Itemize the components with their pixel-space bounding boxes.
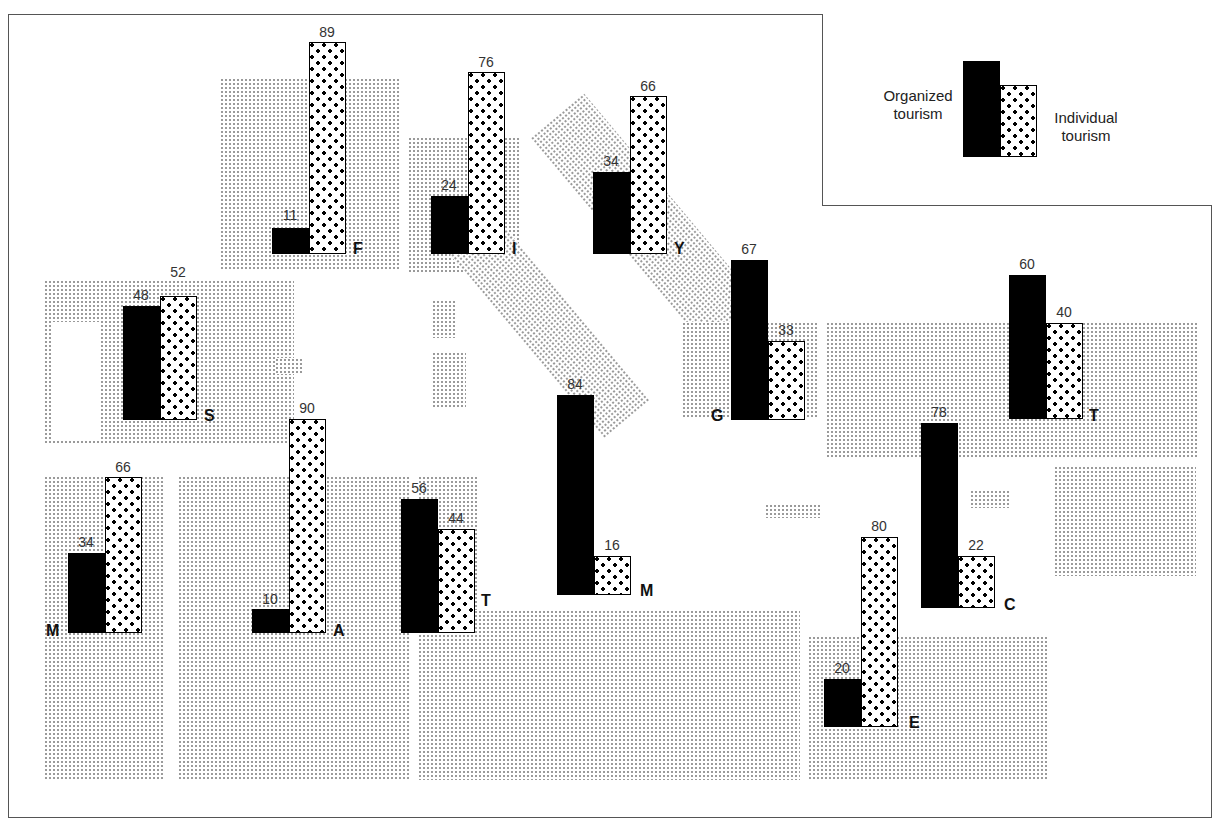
country-label: M (46, 622, 59, 640)
value-individual: 76 (466, 54, 506, 70)
country-label: E (909, 714, 920, 732)
value-organized: 60 (1007, 256, 1047, 272)
legend-organized-label: Organized tourism (873, 87, 963, 123)
bar-individual (105, 477, 142, 633)
land-crete (765, 504, 820, 518)
bar-organized (431, 196, 468, 254)
legend-organized-line2: tourism (893, 105, 942, 122)
bar-individual (438, 529, 475, 633)
legend-individual-line1: Individual (1054, 109, 1117, 126)
value-individual: 33 (766, 322, 806, 338)
bar-individual (289, 419, 326, 633)
bar-organized (824, 679, 861, 727)
value-organized: 34 (66, 534, 106, 550)
bar-individual (861, 537, 898, 727)
value-individual: 16 (592, 537, 632, 553)
land-middle-east (1054, 466, 1196, 576)
bar-organized (68, 553, 105, 633)
land-spain-inland-gap (52, 322, 100, 440)
bar-individual (468, 72, 505, 254)
country-label: C (1004, 596, 1016, 614)
legend-organized-swatch (963, 61, 1000, 157)
bar-organized (252, 609, 289, 633)
value-organized: 24 (429, 177, 469, 193)
bar-organized (272, 228, 309, 254)
legend-individual-label: Individual tourism (1041, 109, 1131, 145)
value-individual: 66 (103, 459, 143, 475)
bar-individual (594, 556, 631, 595)
country-label: Y (674, 240, 685, 258)
bar-organized (557, 395, 594, 595)
value-organized: 11 (270, 207, 310, 223)
value-organized: 34 (591, 153, 631, 169)
country-label: G (711, 407, 723, 425)
country-label: A (333, 622, 345, 640)
bar-organized (123, 306, 160, 420)
bar-organized (401, 499, 438, 633)
country-label: I (512, 240, 516, 258)
value-organized: 20 (822, 660, 862, 676)
land-island-1 (432, 300, 456, 338)
value-organized: 78 (919, 404, 959, 420)
bar-organized (731, 260, 768, 420)
value-organized: 84 (555, 376, 595, 392)
land-island-3 (275, 358, 303, 374)
value-individual: 44 (436, 510, 476, 526)
country-label: F (353, 240, 363, 258)
bar-individual (309, 42, 346, 254)
value-individual: 22 (956, 537, 996, 553)
country-label: T (481, 592, 491, 610)
bar-organized (593, 172, 630, 254)
bar-individual (958, 556, 995, 608)
legend: Organized tourism Individual tourism (822, 14, 1212, 206)
value-organized: 10 (250, 591, 290, 607)
legend-organized-line1: Organized (883, 87, 952, 104)
value-organized: 48 (121, 287, 161, 303)
bar-individual (768, 341, 805, 420)
land-libya (418, 610, 800, 780)
value-individual: 66 (628, 78, 668, 94)
bar-individual (160, 296, 197, 420)
bar-organized (921, 423, 958, 608)
value-organized: 56 (399, 480, 439, 496)
country-label: S (204, 407, 215, 425)
land-cyprus (970, 490, 1010, 508)
land-island-2 (432, 352, 466, 408)
bar-individual (630, 96, 667, 254)
value-individual: 40 (1044, 304, 1084, 320)
value-individual: 90 (287, 400, 327, 416)
value-organized: 67 (729, 241, 769, 257)
bar-organized (1009, 275, 1046, 419)
legend-individual-line2: tourism (1061, 127, 1110, 144)
country-label: M (640, 582, 653, 600)
bar-individual (1046, 323, 1083, 419)
legend-individual-swatch (1000, 85, 1037, 157)
value-individual: 52 (158, 264, 198, 280)
value-individual: 80 (859, 518, 899, 534)
country-label: T (1089, 407, 1099, 425)
value-individual: 89 (307, 24, 347, 40)
